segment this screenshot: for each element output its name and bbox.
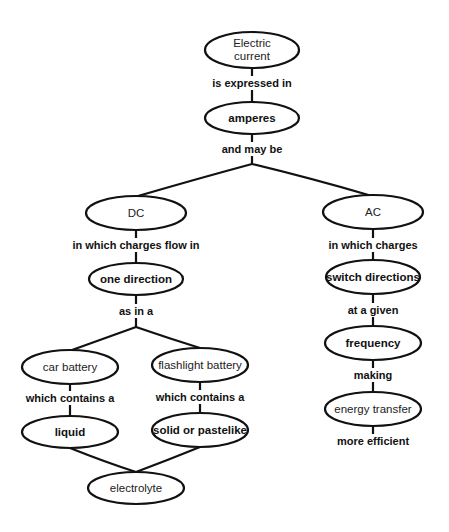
node-frequency: frequency [325, 326, 421, 360]
node-label: Electric [233, 37, 271, 49]
node-label: car battery [43, 361, 98, 373]
node-one-direction: one direction [89, 263, 183, 295]
node-liquid: liquid [22, 416, 118, 448]
link-label-which-contains-a-right: which contains a [155, 391, 246, 403]
link-label-as-in-a: as in a [119, 305, 154, 317]
link-label-in-which-charges: in which charges [328, 239, 417, 251]
link-label-and-may-be: and may be [222, 143, 283, 155]
node-label: electrolyte [110, 482, 162, 494]
edge-solid-to-electrolyte [136, 447, 200, 472]
node-label: flashlight battery [158, 359, 242, 371]
edge-liquid-to-electrolyte [70, 448, 136, 472]
link-label-in-which-charges-flow-in: in which charges flow in [72, 239, 199, 251]
node-label: solid or pastelike [153, 424, 247, 436]
node-solid-or-pastelike: solid or pastelike [152, 413, 248, 447]
concept-map-canvas: Electric current is expressed in amperes… [0, 0, 449, 532]
edge-to-flashlight-battery [136, 327, 200, 348]
link-label-is-expressed-in: is expressed in [212, 77, 292, 89]
node-label: DC [128, 207, 145, 219]
node-label: one direction [100, 273, 172, 285]
edge-junction-to-ac [252, 164, 372, 196]
node-flashlight-battery: flashlight battery [152, 348, 248, 382]
node-ac: AC [323, 195, 423, 229]
edge-to-car-battery [72, 327, 136, 350]
node-label: energy transfer [334, 403, 412, 415]
concept-map-svg: Electric current is expressed in amperes… [0, 0, 449, 532]
link-label-which-contains-a-left: which contains a [25, 392, 116, 404]
node-label: switch directions [326, 271, 420, 283]
node-switch-directions: switch directions [326, 260, 420, 294]
link-label-making: making [354, 369, 393, 381]
node-energy-transfer: energy transfer [325, 392, 421, 426]
node-amperes: amperes [205, 102, 299, 134]
link-label-at-a-given: at a given [348, 304, 399, 316]
node-label: amperes [228, 112, 275, 124]
edge-junction-to-dc [138, 164, 252, 196]
node-electric-current: Electric current [205, 32, 299, 68]
node-label: current [234, 50, 271, 62]
link-label-more-efficient: more efficient [337, 435, 409, 447]
node-car-battery: car battery [22, 350, 118, 384]
node-label: liquid [55, 426, 86, 438]
node-label: frequency [346, 337, 402, 349]
node-dc: DC [86, 196, 186, 230]
node-label: AC [365, 206, 381, 218]
node-electrolyte: electrolyte [88, 472, 184, 504]
